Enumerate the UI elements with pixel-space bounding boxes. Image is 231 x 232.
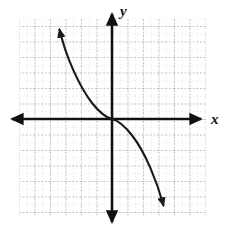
graph-canvas (0, 0, 231, 232)
coordinate-plane-figure: y x (0, 0, 231, 232)
y-axis-label: y (120, 4, 127, 19)
x-axis-label: x (211, 112, 219, 127)
